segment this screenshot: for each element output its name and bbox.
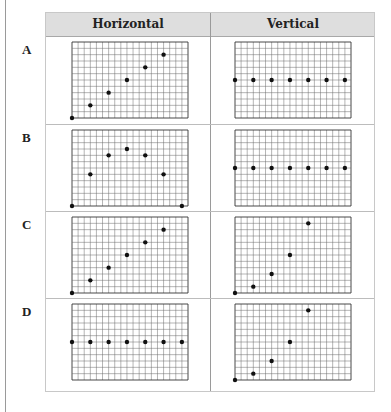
row-divider	[46, 298, 374, 299]
position-dot	[233, 291, 237, 295]
position-dot	[70, 340, 74, 344]
position-dot	[88, 172, 92, 176]
position-dot	[233, 166, 237, 170]
header-horizontal: Horizontal	[46, 13, 210, 36]
position-dot	[269, 78, 273, 82]
position-dot	[343, 166, 347, 170]
row-label: D	[22, 304, 31, 320]
position-dot	[233, 78, 237, 82]
row-divider	[46, 211, 374, 212]
position-dot	[161, 227, 165, 231]
position-dot	[306, 308, 310, 312]
position-dot	[106, 90, 110, 94]
column-divider	[210, 13, 211, 391]
position-dot	[306, 166, 310, 170]
position-dot	[288, 166, 292, 170]
page-border	[5, 0, 6, 412]
position-dot	[143, 340, 147, 344]
position-dot	[269, 272, 273, 276]
row-label: C	[22, 217, 31, 233]
graph-d-horizontal	[68, 300, 192, 384]
position-dot	[251, 78, 255, 82]
position-dot	[288, 340, 292, 344]
graph-b-horizontal	[68, 126, 192, 210]
position-dot	[125, 78, 129, 82]
motion-graphs-table: Horizontal Vertical ABCD	[45, 12, 375, 392]
position-dot	[161, 52, 165, 56]
position-dot	[125, 340, 129, 344]
row-divider	[46, 124, 374, 125]
position-dot	[106, 340, 110, 344]
position-dot	[180, 340, 184, 344]
position-dot	[288, 253, 292, 257]
position-dot	[251, 371, 255, 375]
position-dot	[306, 78, 310, 82]
position-dot	[251, 284, 255, 288]
position-dot	[125, 147, 129, 151]
graph-d-vertical	[231, 300, 355, 384]
position-dot	[288, 78, 292, 82]
position-dot	[106, 153, 110, 157]
row-label: B	[22, 130, 31, 146]
position-dot	[251, 166, 255, 170]
position-dot	[143, 240, 147, 244]
position-dot	[88, 103, 92, 107]
graph-b-vertical	[231, 126, 355, 210]
position-dot	[269, 359, 273, 363]
position-dot	[106, 265, 110, 269]
position-dot	[269, 166, 273, 170]
position-dot	[161, 340, 165, 344]
position-dot	[161, 172, 165, 176]
position-dot	[143, 65, 147, 69]
position-dot	[233, 378, 237, 382]
position-dot	[180, 204, 184, 208]
position-dot	[70, 291, 74, 295]
position-dot	[88, 340, 92, 344]
position-dot	[324, 166, 328, 170]
position-dot	[306, 221, 310, 225]
position-dot	[70, 204, 74, 208]
graph-a-vertical	[231, 38, 355, 122]
position-dot	[343, 78, 347, 82]
row-label: A	[22, 42, 31, 58]
graph-a-horizontal	[68, 38, 192, 122]
position-dot	[70, 116, 74, 120]
position-dot	[324, 78, 328, 82]
graph-c-vertical	[231, 213, 355, 297]
position-dot	[143, 153, 147, 157]
position-dot	[125, 253, 129, 257]
position-dot	[88, 278, 92, 282]
graph-c-horizontal	[68, 213, 192, 297]
header-vertical: Vertical	[211, 13, 375, 36]
